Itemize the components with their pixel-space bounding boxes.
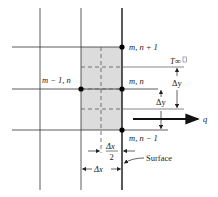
surface-leader-arrow — [125, 158, 145, 163]
label-m-n-plus-1: m, n + 1 — [129, 42, 158, 52]
label-delta-y-upper: Δy — [172, 78, 182, 88]
label-q: q — [203, 114, 208, 124]
label-m-n-minus-1: m, n − 1 — [129, 133, 158, 143]
t-infinity-box-icon — [183, 57, 187, 62]
label-t-infinity: T∞ — [170, 56, 181, 66]
node-m-n-plus-1 — [119, 44, 124, 49]
node-m-n — [119, 86, 124, 91]
node-m-minus-1-n — [78, 86, 83, 91]
label-delta-x-half-denominator: 2 — [110, 152, 114, 162]
finite-difference-diagram: m, n + 1 m − 1, n m, n m, n − 1 T∞ Δy Δy… — [0, 0, 218, 197]
label-delta-x: Δx — [93, 164, 103, 174]
label-m-n: m, n — [129, 76, 144, 86]
label-delta-x-half-numerator: Δx — [105, 141, 115, 151]
label-delta-y-lower: Δy — [156, 97, 166, 107]
control-volume — [81, 47, 122, 130]
node-m-n-minus-1 — [119, 127, 124, 132]
label-m-minus-1-n: m − 1, n — [42, 75, 71, 85]
label-surface: Surface — [146, 153, 172, 163]
